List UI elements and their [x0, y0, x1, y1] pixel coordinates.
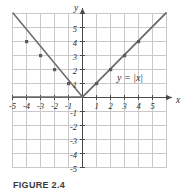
y-tick-label: 5: [73, 24, 77, 34]
y-tick-labels: 5 4 3 2 1 -1 -2 -3 -4 -5: [70, 24, 78, 174]
x-tick-label: 5: [150, 101, 154, 111]
x-tick-labels: -5 -4 -3 -2 -1 1 2 3 4 5: [9, 101, 155, 111]
figure-container: -5 -4 -3 -2 -1 1 2 3 4 5 5 4 3 2 1 -1 -2…: [0, 0, 184, 189]
data-point: [137, 40, 140, 43]
y-tick-label: 1: [73, 80, 77, 90]
y-tick-label: -5: [70, 164, 77, 174]
y-tick-label: -1: [70, 108, 77, 118]
data-point: [123, 54, 126, 57]
data-point: [39, 54, 42, 57]
data-point: [25, 40, 28, 43]
x-axis-label: x: [175, 95, 181, 105]
x-tick-label: 3: [121, 101, 126, 111]
data-point: [109, 68, 112, 71]
x-tick-label: -4: [23, 101, 31, 111]
y-tick-label: -2: [70, 122, 78, 132]
x-tick-label: 2: [108, 101, 113, 111]
y-tick-label: 3: [72, 52, 77, 62]
y-tick-label: 2: [73, 66, 78, 76]
x-tick-label: 4: [136, 101, 141, 111]
x-tick-label: -5: [9, 101, 16, 111]
figure-caption: FIGURE 2.4: [13, 180, 65, 189]
data-point: [67, 82, 70, 85]
graph-plot: -5 -4 -3 -2 -1 1 2 3 4 5 5 4 3 2 1 -1 -2…: [0, 0, 184, 176]
equation-label: y = |x|: [116, 72, 143, 83]
x-tick-label: 1: [94, 101, 98, 111]
data-point: [53, 68, 56, 71]
y-tick-label: -4: [70, 150, 78, 160]
x-tick-label: -3: [37, 101, 44, 111]
x-axis-arrowhead: [166, 95, 172, 100]
x-tick-label: -2: [51, 101, 59, 111]
y-tick-label: -3: [70, 136, 77, 146]
y-tick-label: 4: [73, 38, 78, 48]
data-point: [95, 82, 98, 85]
coordinate-plane-svg: -5 -4 -3 -2 -1 1 2 3 4 5 5 4 3 2 1 -1 -2…: [0, 0, 184, 176]
y-axis-label: y: [73, 3, 79, 13]
